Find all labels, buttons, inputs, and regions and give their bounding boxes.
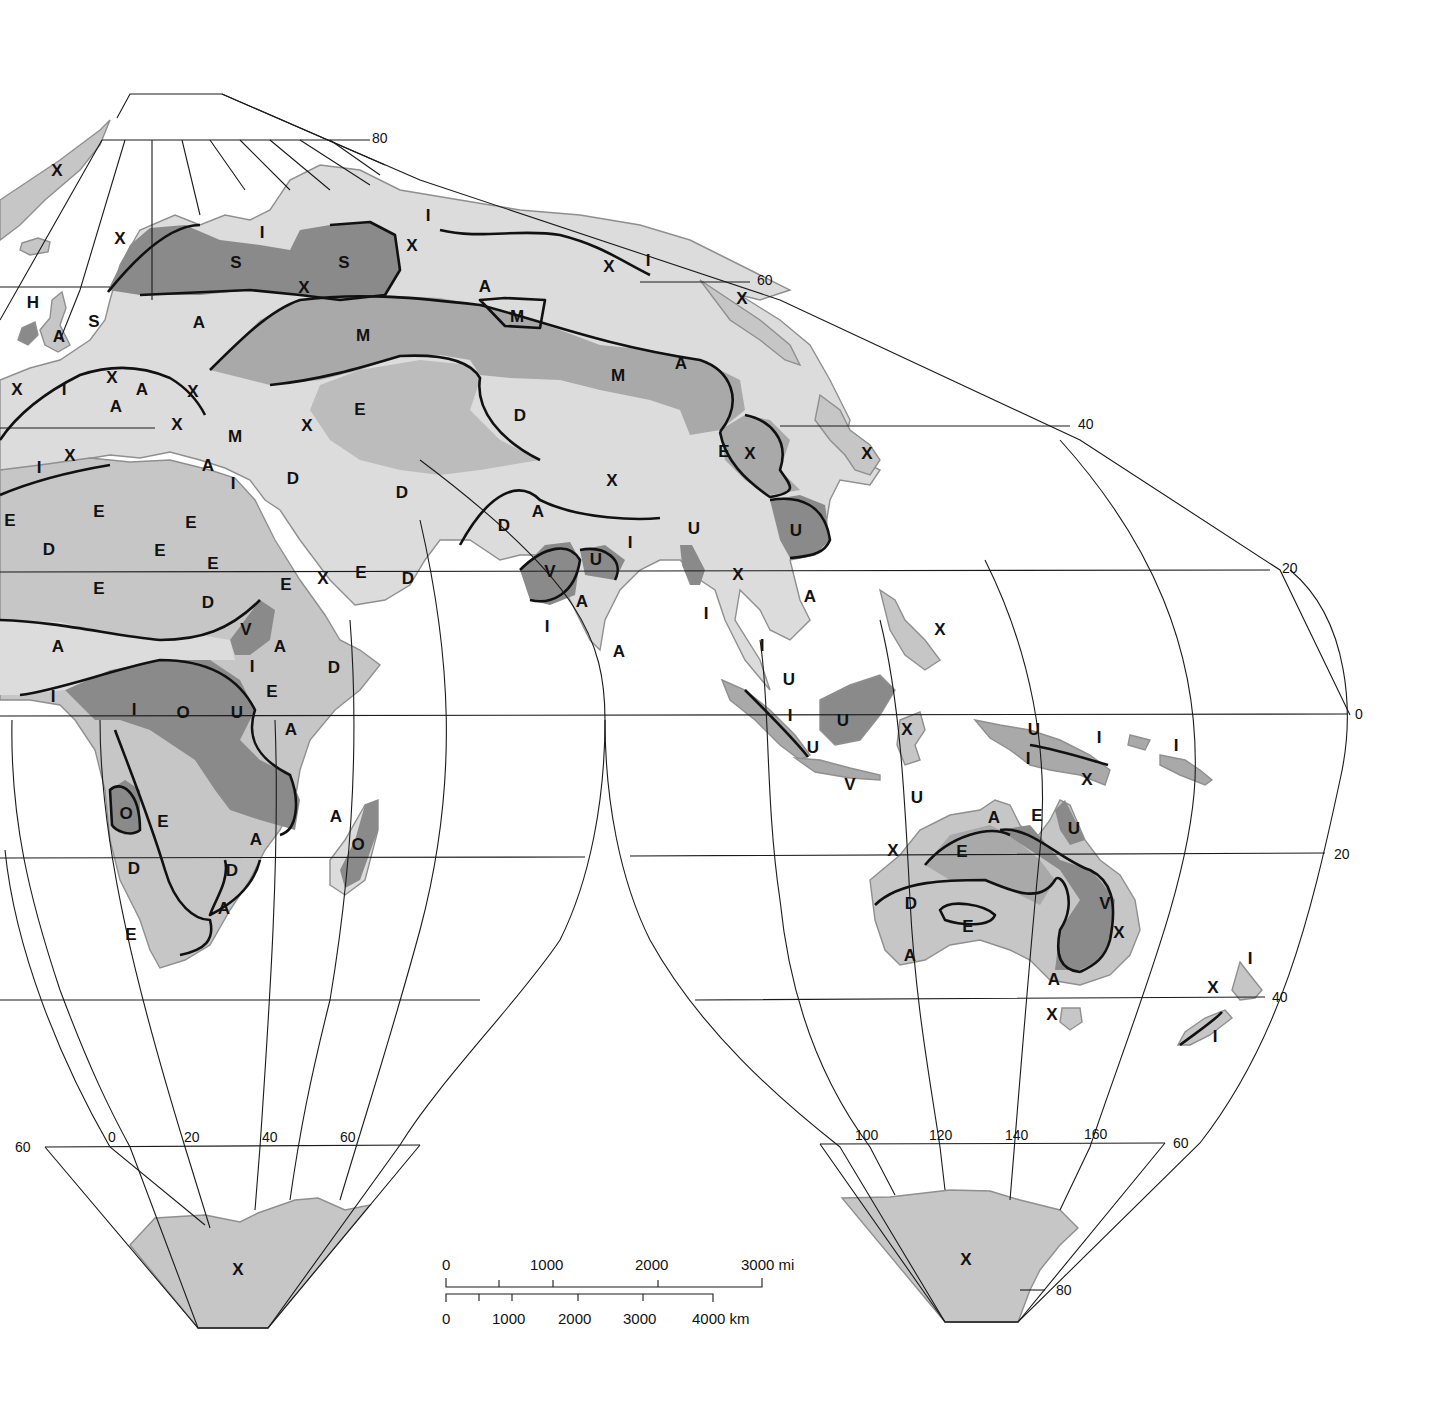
lon-label-160: 160 [1084,1126,1108,1142]
zone-label: M [611,366,625,385]
zone-label: I [1026,749,1031,768]
zone-label: X [934,620,946,639]
zone-label: A [576,592,588,611]
zone-label: X [317,569,329,588]
scale-km-4000: 4000 km [692,1310,750,1327]
boundary-line [745,690,808,757]
zone-label: I [260,223,265,242]
zone-label: X [171,415,183,434]
zone-label: I [1174,736,1179,755]
lat-label-40s: 40 [1272,989,1288,1005]
zone-label: E [266,682,277,701]
zone-label: X [1113,923,1125,942]
zone-label: E [125,925,136,944]
scale-km-1000: 1000 [492,1310,525,1327]
zone-label: X [301,416,313,435]
lat-label-20s: 20 [1334,846,1350,862]
zone-label: E [157,812,168,831]
zone-label: I [545,617,550,636]
zone-label: E [962,917,973,936]
zone-label: M [356,326,370,345]
zone-label: A [988,808,1000,827]
scale-km-2000: 2000 [558,1310,591,1327]
zone-label: A [193,313,205,332]
tasmania-land [1060,1008,1082,1030]
zone-label: D [287,469,299,488]
zone-label: S [338,253,349,272]
zone-label: D [328,658,340,677]
scale-line-km [446,1294,713,1302]
zone-label: A [136,380,148,399]
antarctica-left-land [130,1198,370,1328]
lat-label-60n: 60 [757,272,773,288]
zone-label: E [280,575,291,594]
lon-label-140: 140 [1005,1127,1029,1143]
zone-label: A [53,327,65,346]
zone-label: X [887,841,899,860]
polar-frame-north [117,94,385,165]
zone-label: X [51,161,63,180]
zone-label: A [804,587,816,606]
zone-label: D [226,861,238,880]
zone-label: U [590,550,602,569]
lat-label-40n: 40 [1078,416,1094,432]
zone-label: S [88,312,99,331]
sumatra-land [722,680,810,760]
zone-label: A [1048,970,1060,989]
zone-label: I [704,604,709,623]
zone-label: X [406,236,418,255]
zone-label: S [230,253,241,272]
zone-label: X [298,278,310,297]
zone-label: U [807,738,819,757]
zone-label: I [37,458,42,477]
parallel-40s [0,997,1265,1000]
java-land [795,758,880,780]
zone-label: I [231,474,236,493]
zone-label: E [355,563,366,582]
zone-label: U [1028,720,1040,739]
zone-label: A [250,830,262,849]
zone-label: E [1031,806,1042,825]
zone-label: U [688,519,700,538]
zone-label: X [861,444,873,463]
lon-label-60: 60 [340,1129,356,1145]
zone-label: X [603,257,615,276]
zone-label: O [351,835,364,854]
zone-label: H [27,293,39,312]
zone-label: A [202,456,214,475]
zone-label: D [514,406,526,425]
lat-label-60s-right: 60 [1173,1135,1189,1151]
zone-label: A [218,899,230,918]
zone-label: A [274,637,286,656]
zone-label: A [285,720,297,739]
zone-label: I [250,657,255,676]
zone-label: M [228,427,242,446]
world-map: 80 60 40 20 0 20 40 60 60 80 0 20 40 60 … [0,0,1451,1416]
zone-label: X [1207,978,1219,997]
zone-label: A [904,946,916,965]
zone-label: V [240,620,252,639]
scale-mi-2000: 2000 [635,1256,668,1273]
zone-label: E [93,579,104,598]
zone-label: U [231,703,243,722]
zone-label: I [426,206,431,225]
scale-line-miles [446,1278,762,1287]
zone-label: U [837,711,849,730]
lon-label-120: 120 [929,1127,953,1143]
zone-label: A [330,807,342,826]
zone-label: I [62,380,67,399]
zone-label: X [736,289,748,308]
zone-label: D [43,540,55,559]
zone-label: I [760,636,765,655]
zone-label: X [744,444,756,463]
zone-label: X [106,368,118,387]
zone-label: M [510,307,524,326]
scale-mi-3000: 3000 mi [741,1256,794,1273]
zone-label: X [114,229,126,248]
scale-bar: 0 1000 2000 3000 mi 0 1000 2000 3000 400… [442,1256,794,1327]
scale-km-0: 0 [442,1310,450,1327]
zone-label: I [1248,949,1253,968]
lat-label-20n: 20 [1282,560,1298,576]
zone-label: D [402,569,414,588]
zone-label: X [64,446,76,465]
